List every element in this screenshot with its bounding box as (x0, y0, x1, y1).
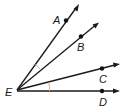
label-a: A (52, 14, 60, 26)
angle-diagram: A B C D E (0, 0, 127, 111)
point-d (100, 89, 104, 93)
point-c (100, 66, 104, 70)
label-e: E (5, 86, 13, 98)
arrowhead-icon (113, 89, 120, 94)
arrowhead-icon (113, 63, 120, 68)
label-b: B (77, 41, 84, 53)
ray-ed: D (17, 89, 120, 109)
angle-mark-aeb (36, 65, 42, 71)
ray-ec: C (17, 63, 120, 91)
angle-mark-ced (49, 83, 50, 92)
point-a (64, 18, 68, 22)
point-b (79, 34, 83, 38)
label-d: D (99, 96, 107, 108)
label-c: C (99, 73, 107, 85)
